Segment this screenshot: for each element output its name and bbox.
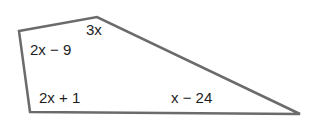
- quadrilateral-shape: [0, 0, 320, 125]
- quadrilateral-diagram: 3x 2x − 9 2x + 1 x − 24: [0, 0, 320, 125]
- angle-label-top-left: 2x − 9: [30, 42, 71, 57]
- angle-label-bottom-right: x − 24: [171, 90, 212, 105]
- angle-label-bottom-left: 2x + 1: [39, 90, 80, 105]
- angle-label-top: 3x: [86, 22, 102, 37]
